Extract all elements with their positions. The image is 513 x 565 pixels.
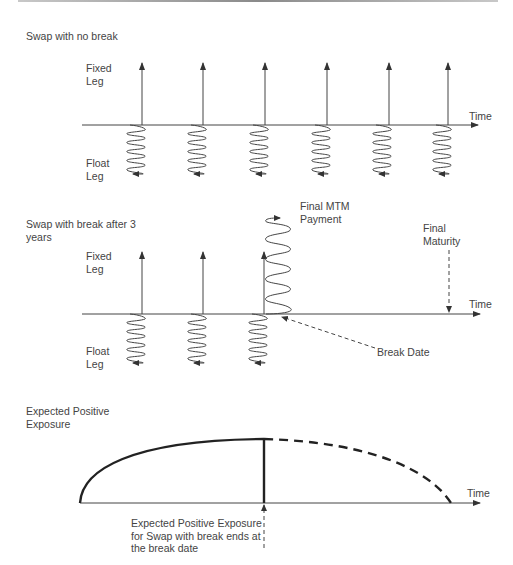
- panel-no-break: [82, 63, 478, 174]
- final-mtm-payment-label: Final MTM Payment: [300, 200, 350, 225]
- panel-title-epe: Expected Positive Exposure: [26, 405, 109, 430]
- panel-with-break: [82, 218, 480, 363]
- fixed-leg-arrows: [142, 252, 264, 314]
- time-axis-label: Time: [467, 487, 490, 500]
- time-axis-label: Time: [469, 298, 492, 311]
- fixed-leg-label: Fixed Leg: [86, 62, 112, 87]
- break-date-pointer: [282, 317, 375, 348]
- panel-title-with-break: Swap with break after 3 years: [26, 218, 136, 243]
- break-date-label: Break Date: [377, 346, 430, 359]
- epe-curve-dashed: [264, 439, 451, 503]
- final-maturity-label: Final Maturity: [423, 222, 460, 247]
- float-leg-label: Float Leg: [86, 157, 109, 182]
- float-leg-label: Float Leg: [86, 345, 109, 370]
- epe-curve-solid: [80, 439, 264, 503]
- fixed-leg-label: Fixed Leg: [86, 250, 112, 275]
- panel-title-no-break: Swap with no break: [26, 30, 118, 43]
- final-mtm-coil: [266, 218, 292, 314]
- float-leg-coils: [127, 314, 268, 363]
- diagram-canvas: [0, 0, 513, 565]
- time-axis-label: Time: [469, 110, 492, 123]
- float-leg-coils: [127, 125, 452, 174]
- epe-annotation: Expected Positive Exposure for Swap with…: [131, 517, 262, 555]
- fixed-leg-arrows: [142, 63, 448, 125]
